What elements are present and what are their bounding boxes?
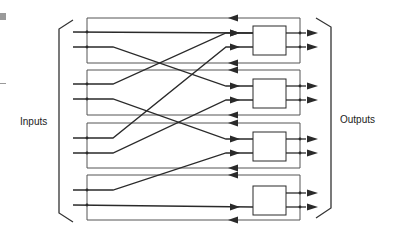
junction-dot: [86, 46, 89, 49]
input-wire: [73, 153, 253, 190]
arrow-right-icon: [230, 44, 240, 51]
junction-dot: [299, 152, 302, 155]
arrow-right-icon: [230, 150, 240, 157]
junction-dot: [299, 85, 302, 88]
inputs-label: Inputs: [20, 116, 47, 127]
arrow-right-icon: [307, 190, 318, 197]
input-wires: [73, 30, 253, 211]
junction-dot: [299, 32, 302, 35]
input-wire: [73, 99, 253, 139]
outputs-label: Outputs: [340, 114, 375, 125]
arrow-right-icon: [307, 44, 318, 51]
arrow-left-icon: [228, 15, 238, 22]
switch-boxes: [253, 26, 286, 215]
arrow-left-icon: [228, 67, 238, 74]
junction-dot: [299, 206, 302, 209]
arrow-right-icon: [307, 150, 318, 157]
arrow-right-icon: [307, 97, 318, 104]
arrow-left-icon: [228, 60, 238, 67]
switch-box: [253, 26, 286, 55]
arrow-left-icon: [228, 217, 238, 224]
junction-dot: [86, 31, 89, 34]
input-wire: [73, 47, 253, 138]
junction-dot: [86, 137, 89, 140]
outputs-bracket: [316, 18, 331, 218]
arrow-right-icon: [230, 30, 240, 37]
arrow-left-icon: [228, 120, 238, 127]
right-bracket-line: [316, 18, 331, 218]
junction-dot: [86, 204, 89, 207]
junction-dot: [299, 99, 302, 102]
switch-box: [253, 132, 286, 161]
arrow-right-icon: [230, 136, 240, 143]
input-wire: [73, 47, 253, 86]
arrow-right-icon: [230, 204, 240, 211]
output-wires: [286, 30, 318, 211]
arrow-right-icon: [230, 97, 240, 104]
input-wire: [73, 205, 253, 207]
switch-box: [253, 79, 286, 108]
arrow-right-icon: [307, 83, 318, 90]
arrow-right-icon: [230, 83, 240, 90]
left-bracket-line: [59, 20, 73, 222]
junction-dot: [86, 83, 89, 86]
arrow-left-icon: [228, 172, 238, 179]
junction-dot: [299, 138, 302, 141]
arrow-left-icon: [228, 165, 238, 172]
input-wire: [73, 100, 253, 153]
switch-box: [253, 186, 286, 215]
arrow-left-icon: [228, 112, 238, 119]
junction-dot: [86, 98, 89, 101]
junction-dot: [86, 189, 89, 192]
arrow-right-icon: [307, 136, 318, 143]
junction-dot: [299, 46, 302, 49]
input-wire: [73, 33, 253, 84]
junction-dot: [299, 192, 302, 195]
inputs-bracket: [59, 20, 73, 222]
junction-dot: [86, 152, 89, 155]
arrow-right-icon: [307, 30, 318, 37]
arrow-right-icon: [307, 204, 318, 211]
